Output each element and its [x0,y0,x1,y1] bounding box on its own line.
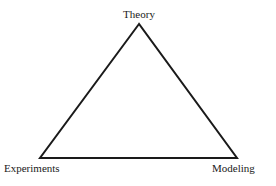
triangle-shape [40,24,237,158]
node-label-modeling: Modeling [212,162,255,174]
node-label-theory: Theory [123,8,155,20]
node-label-experiments: Experiments [4,162,60,174]
triangle-diagram [0,0,276,186]
